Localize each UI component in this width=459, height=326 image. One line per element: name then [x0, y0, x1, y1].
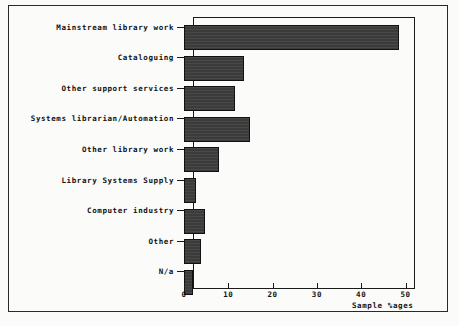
value-tick-label: 0: [181, 290, 186, 299]
category-tick: [177, 27, 184, 28]
value-tick: [406, 283, 407, 289]
bar-8: [184, 239, 201, 264]
category-label: Mainstream library work: [56, 22, 174, 31]
category-tick: [177, 57, 184, 58]
value-tick: [228, 283, 229, 289]
value-tick: [273, 283, 274, 289]
category-tick: [177, 180, 184, 181]
value-tick: [184, 283, 185, 289]
value-tick-label: 30: [312, 290, 322, 299]
category-tick: [177, 149, 184, 150]
category-tick: [177, 210, 184, 211]
category-tick: [177, 118, 184, 119]
value-tick-label: 40: [356, 290, 366, 299]
category-label: Other library work: [82, 144, 174, 153]
bar-5: [184, 147, 219, 172]
value-tick: [361, 283, 362, 289]
category-label: Computer industry: [87, 206, 174, 215]
bar-3: [184, 86, 235, 111]
x-axis-title: Sample %ages: [352, 301, 413, 310]
category-tick: [177, 271, 184, 272]
category-label: Other support services: [61, 83, 174, 92]
category-label: Other: [148, 236, 174, 245]
value-tick-label: 10: [223, 290, 233, 299]
bar-2: [184, 56, 244, 81]
bar-fill: [184, 147, 219, 172]
category-label: Library Systems Supply: [61, 175, 174, 184]
bars-group: [184, 11, 406, 283]
category-label: Systems librarian/Automation: [31, 114, 174, 123]
bar-fill: [184, 209, 205, 234]
page-background: Mainstream library workCataloguingOther …: [0, 0, 459, 326]
category-tick: [177, 241, 184, 242]
category-label: N/a: [159, 267, 174, 276]
bar-fill: [184, 117, 250, 142]
value-tick: [317, 283, 318, 289]
bar-fill: [184, 239, 201, 264]
bar-fill: [184, 56, 244, 81]
bar-fill: [184, 25, 399, 50]
value-tick-label: 50: [400, 290, 410, 299]
bar-fill: [184, 86, 235, 111]
category-tick: [177, 88, 184, 89]
bar-fill: [184, 178, 196, 203]
value-tick-label: 20: [267, 290, 277, 299]
bar-7: [184, 209, 205, 234]
bar-1: [184, 25, 399, 50]
bar-4: [184, 117, 250, 142]
category-label: Cataloguing: [118, 53, 174, 62]
bar-6: [184, 178, 196, 203]
